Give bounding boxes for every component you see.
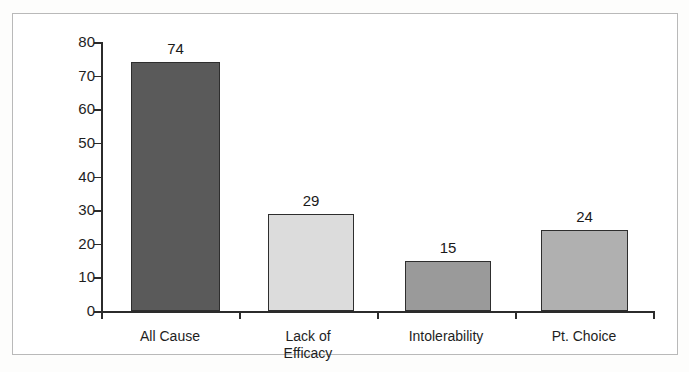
x-label-lack-of-efficacy-line-0: Lack of [239, 328, 377, 345]
bar-value-lack-of-efficacy: 29 [269, 192, 353, 210]
x-label-lack-of-efficacy: Lack of Efficacy [239, 328, 377, 362]
bar-value-intolerability: 15 [406, 239, 490, 257]
x-label-pt-choice-line-0: Pt. Choice [515, 328, 653, 345]
x-tick-3 [515, 311, 517, 319]
y-tick-label-20: 20 [78, 234, 95, 253]
bar-all-cause[interactable]: 74 [131, 62, 220, 311]
bar-lack-of-efficacy[interactable]: 29 [268, 214, 354, 312]
figure-frame: 0 10 20 30 40 50 [12, 13, 678, 355]
bar-intolerability[interactable]: 15 [405, 261, 491, 311]
y-tick-label-50: 50 [78, 133, 95, 152]
x-tick-1 [239, 311, 241, 319]
x-tick-2 [377, 311, 379, 319]
x-tick-0 [101, 311, 103, 319]
bar-value-all-cause: 74 [132, 40, 219, 58]
y-tick-label-10: 10 [78, 267, 95, 286]
x-label-all-cause-line-0: All Cause [101, 328, 239, 345]
y-tick-label-0: 0 [87, 301, 95, 320]
bar-pt-choice[interactable]: 24 [541, 230, 628, 311]
y-tick-label-80: 80 [78, 32, 95, 51]
x-label-intolerability: Intolerability [377, 328, 515, 345]
x-label-all-cause: All Cause [101, 328, 239, 345]
bar-value-pt-choice: 24 [542, 208, 627, 226]
y-tick-label-40: 40 [78, 167, 95, 186]
chart-page: 0 10 20 30 40 50 [0, 0, 689, 372]
y-tick-label-30: 30 [78, 200, 95, 219]
y-axis-line [101, 42, 103, 311]
y-tick-label-70: 70 [78, 66, 95, 85]
x-label-intolerability-line-0: Intolerability [377, 328, 515, 345]
plot-area: 0 10 20 30 40 50 [101, 42, 653, 311]
x-label-lack-of-efficacy-line-1: Efficacy [239, 345, 377, 362]
x-tick-4 [653, 311, 655, 319]
y-tick-label-60: 60 [78, 99, 95, 118]
x-label-pt-choice: Pt. Choice [515, 328, 653, 345]
